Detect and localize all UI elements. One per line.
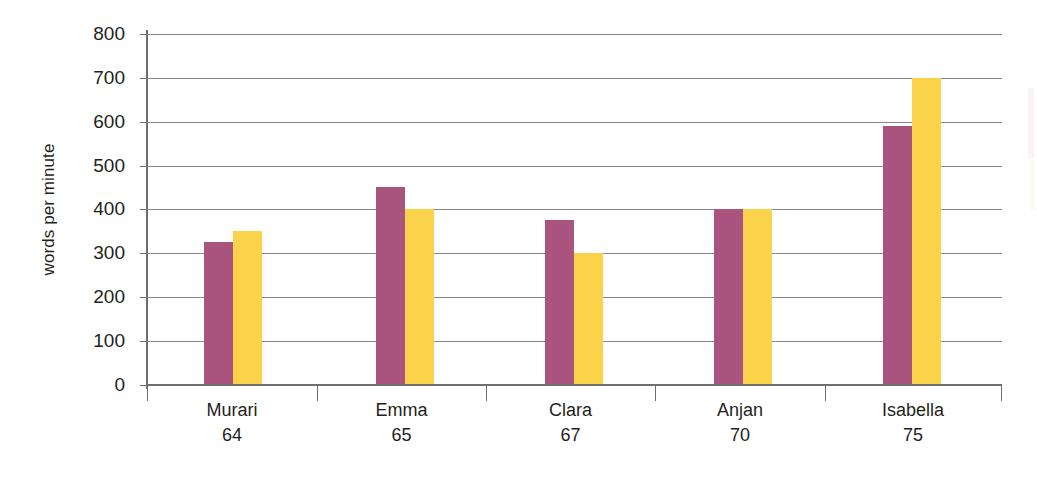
x-axis-category-label-1: Emma 65 bbox=[317, 398, 486, 448]
bar-series-1[interactable] bbox=[204, 242, 233, 384]
category-number: 75 bbox=[825, 423, 1001, 448]
y-tick-label-100: 100 bbox=[55, 330, 125, 352]
bar-series-1[interactable] bbox=[714, 209, 743, 384]
y-tick-label-600: 600 bbox=[55, 111, 125, 133]
y-tick-label-0: 0 bbox=[55, 374, 125, 396]
x-axis-category-label-3: Anjan 70 bbox=[655, 398, 825, 448]
y-tick-label-300: 300 bbox=[55, 242, 125, 264]
x-axis-category-label-2: Clara 67 bbox=[486, 398, 655, 448]
category-name: Murari bbox=[206, 400, 257, 420]
bar-series-1[interactable] bbox=[376, 187, 405, 384]
x-axis-category-label-4: Isabella 75 bbox=[825, 398, 1001, 448]
x-axis-category-label-0: Murari 64 bbox=[147, 398, 317, 448]
bar-group bbox=[204, 34, 263, 384]
bar-series-2[interactable] bbox=[233, 231, 262, 384]
category-number: 70 bbox=[655, 423, 825, 448]
y-tick-label-700: 700 bbox=[55, 67, 125, 89]
category-number: 64 bbox=[147, 423, 317, 448]
plot-area bbox=[147, 34, 1002, 385]
bar-group bbox=[714, 34, 773, 384]
category-tick bbox=[1001, 386, 1002, 401]
bar-group bbox=[376, 34, 435, 384]
category-name: Anjan bbox=[717, 400, 763, 420]
bar-group bbox=[545, 34, 604, 384]
bar-series-2[interactable] bbox=[743, 209, 772, 384]
y-tick-label-500: 500 bbox=[55, 155, 125, 177]
y-tick-label-200: 200 bbox=[55, 286, 125, 308]
bar-series-2[interactable] bbox=[574, 253, 603, 384]
scan-artifact bbox=[1030, 160, 1035, 210]
bar-series-2[interactable] bbox=[405, 209, 434, 384]
category-name: Isabella bbox=[882, 400, 944, 420]
bar-series-2[interactable] bbox=[912, 78, 941, 384]
chart-container: words per minute 800 700 600 500 400 300… bbox=[0, 0, 1037, 481]
x-axis-baseline bbox=[147, 384, 1002, 386]
bar-series-1[interactable] bbox=[883, 126, 912, 384]
category-name: Emma bbox=[375, 400, 427, 420]
bar-series-1[interactable] bbox=[545, 220, 574, 384]
category-number: 65 bbox=[317, 423, 486, 448]
category-name: Clara bbox=[549, 400, 592, 420]
scan-artifact bbox=[1028, 88, 1034, 158]
y-tick-label-800: 800 bbox=[55, 23, 125, 45]
category-number: 67 bbox=[486, 423, 655, 448]
y-tick-label-400: 400 bbox=[55, 198, 125, 220]
bar-group bbox=[883, 34, 942, 384]
